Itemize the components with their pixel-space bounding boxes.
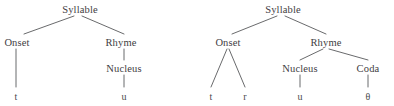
- branch-onset-to-leaf-t: [211, 49, 227, 87]
- leaf-label-onset-r: r: [243, 91, 247, 102]
- node-label-rhyme: Rhyme: [310, 37, 341, 48]
- tree-tu: Syllable Onset Rhyme Nucleus t u: [4, 4, 141, 102]
- branch-syllable-to-onset: [24, 16, 74, 34]
- node-label-syllable: Syllable: [62, 4, 98, 15]
- branch-onset-to-leaf-r: [229, 49, 245, 87]
- branch-rhyme-to-coda: [329, 49, 368, 60]
- branch-syllable-to-rhyme: [285, 16, 326, 34]
- leaf-label-coda-theta: θ: [366, 91, 371, 102]
- branch-syllable-to-rhyme: [82, 16, 124, 34]
- node-label-rhyme: Rhyme: [105, 37, 136, 48]
- syllable-tree-figure: Syllable Onset Rhyme Nucleus t u: [0, 0, 394, 106]
- node-label-onset: Onset: [215, 37, 240, 48]
- branch-rhyme-to-nucleus: [300, 49, 323, 60]
- tree-diagram-canvas: Syllable Onset Rhyme Nucleus t u: [0, 0, 394, 106]
- leaf-label-nucleus-u: u: [122, 91, 127, 102]
- node-label-nucleus: Nucleus: [106, 63, 141, 74]
- node-label-nucleus: Nucleus: [282, 63, 317, 74]
- branch-syllable-to-onset: [232, 16, 277, 34]
- leaf-label-nucleus-u: u: [298, 91, 303, 102]
- node-label-coda: Coda: [357, 63, 380, 74]
- node-label-onset: Onset: [4, 37, 29, 48]
- leaf-label-onset-t: t: [210, 91, 213, 102]
- node-label-syllable: Syllable: [265, 4, 301, 15]
- tree-truth: Syllable Onset Rhyme Nucleus Coda t r u …: [210, 4, 380, 102]
- leaf-label-onset-t: t: [15, 91, 18, 102]
